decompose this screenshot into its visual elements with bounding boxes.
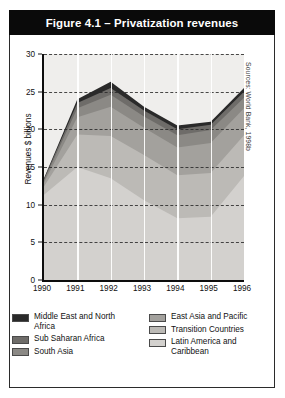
y-tick-label: 25: [26, 87, 35, 96]
x-tick-label: 1994: [166, 284, 184, 293]
x-axis-ticks: 1990199119921993199419951996: [42, 284, 244, 302]
legend-swatch-icon: [149, 326, 166, 334]
x-tick-label: 1992: [100, 284, 118, 293]
legend-item[interactable]: Latin America and Caribbean: [149, 337, 264, 356]
legend-swatch-icon: [12, 336, 29, 344]
figure-title-bar: Figure 4.1 – Privatization revenues: [9, 10, 275, 35]
gridline-vertical: [211, 54, 212, 280]
x-tick-label: 1990: [33, 284, 51, 293]
page-title: Figure 4.1 – Privatization revenues: [46, 17, 239, 29]
gridline-vertical: [144, 54, 145, 280]
gridline-vertical: [111, 54, 112, 280]
legend-item[interactable]: Middle East and North Africa: [12, 312, 127, 331]
chart-legend: Middle East and North AfricaSub Saharan …: [12, 312, 264, 374]
y-tick-label: 15: [26, 163, 35, 172]
y-tick-label: 20: [26, 125, 35, 134]
chart-container: Revenues $ billions 051015202530 1990199…: [12, 46, 248, 304]
figure-card: Figure 4.1 – Privatization revenues Sour…: [0, 0, 285, 398]
legend-column-left: Middle East and North AfricaSub Saharan …: [12, 312, 127, 374]
y-axis-ticks: 051015202530: [12, 46, 38, 304]
x-tick-label: 1996: [233, 284, 251, 293]
y-tick-label: 30: [26, 50, 35, 59]
x-tick-label: 1993: [133, 284, 151, 293]
legend-column-right: East Asia and PacificTransition Countrie…: [137, 312, 264, 374]
legend-item-label: Transition Countries: [171, 325, 244, 335]
legend-swatch-icon: [149, 339, 166, 347]
legend-item[interactable]: Sub Saharan Africa: [12, 334, 127, 344]
x-tick-label: 1995: [200, 284, 218, 293]
legend-item[interactable]: East Asia and Pacific: [149, 312, 264, 322]
legend-swatch-icon: [149, 314, 166, 322]
gridline-vertical: [177, 54, 178, 280]
legend-item[interactable]: South Asia: [12, 347, 127, 357]
legend-item-label: East Asia and Pacific: [171, 312, 247, 322]
gridline-vertical: [77, 54, 78, 280]
y-tick-label: 5: [30, 238, 35, 247]
legend-swatch-icon: [12, 314, 29, 322]
legend-item[interactable]: Transition Countries: [149, 325, 264, 335]
plot-area: [42, 54, 244, 282]
x-tick-label: 1991: [66, 284, 84, 293]
legend-item-label: Latin America and Caribbean: [171, 337, 264, 356]
legend-item-label: South Asia: [34, 347, 73, 357]
legend-item-label: Middle East and North Africa: [34, 312, 127, 331]
legend-swatch-icon: [12, 348, 29, 356]
y-tick-label: 10: [26, 200, 35, 209]
legend-item-label: Sub Saharan Africa: [34, 334, 105, 344]
